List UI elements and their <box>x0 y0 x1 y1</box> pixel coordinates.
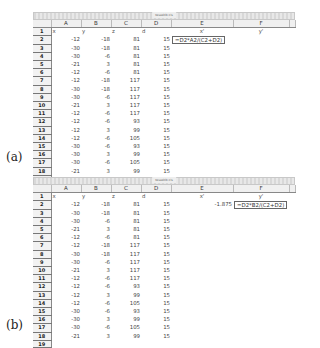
cell-c[interactable]: 81 <box>111 226 141 234</box>
cell-b[interactable]: -6 <box>81 93 111 101</box>
cell-c[interactable]: 93 <box>111 118 141 126</box>
cell-d[interactable]: 15 <box>141 308 171 316</box>
cell-d[interactable]: 15 <box>141 332 171 340</box>
cell-d1[interactable]: d <box>141 193 171 201</box>
cell-d[interactable]: 15 <box>141 118 171 126</box>
cell-a[interactable]: -21 <box>51 102 81 110</box>
cell-e[interactable] <box>171 316 233 324</box>
row-header[interactable]: 1 <box>33 193 51 201</box>
cell-a[interactable]: -30 <box>51 159 81 167</box>
cell[interactable] <box>111 340 141 347</box>
cell-e[interactable] <box>171 242 233 250</box>
cell-a[interactable]: -21 <box>51 167 81 175</box>
cell-f[interactable] <box>233 151 289 159</box>
row-header[interactable]: 17 <box>33 159 51 167</box>
cell-g[interactable] <box>289 93 295 101</box>
cell-f[interactable] <box>233 275 289 283</box>
cell-d[interactable]: 15 <box>141 217 171 225</box>
cell-c[interactable]: 81 <box>111 217 141 225</box>
cell-e[interactable] <box>171 291 233 299</box>
cell-g1[interactable] <box>289 28 295 36</box>
row-header[interactable]: 16 <box>33 316 51 324</box>
cell-e[interactable] <box>171 209 233 217</box>
cell-e1[interactable]: x' <box>171 193 233 201</box>
cell-g[interactable] <box>289 308 295 316</box>
cell-f[interactable] <box>233 291 289 299</box>
cell-b[interactable]: 3 <box>81 102 111 110</box>
cell-b[interactable]: 3 <box>81 291 111 299</box>
cell-e[interactable]: -1.875 <box>171 201 233 209</box>
cell-a[interactable]: -12 <box>51 77 81 85</box>
cell-b[interactable]: -18 <box>81 36 111 44</box>
cell-f[interactable] <box>233 308 289 316</box>
cell-e[interactable] <box>171 299 233 307</box>
cell-c[interactable]: 117 <box>111 77 141 85</box>
cell-c[interactable]: 99 <box>111 291 141 299</box>
cell-f[interactable] <box>233 61 289 69</box>
cell-b[interactable]: -6 <box>81 134 111 142</box>
cell-d[interactable]: 15 <box>141 52 171 60</box>
cell-b[interactable]: -6 <box>81 234 111 242</box>
cell-e[interactable] <box>171 134 233 142</box>
cell-a[interactable]: -30 <box>51 316 81 324</box>
cell-d[interactable]: 15 <box>141 134 171 142</box>
cell-e[interactable] <box>171 52 233 60</box>
cell-f[interactable] <box>233 118 289 126</box>
row-header[interactable]: 4 <box>33 52 51 60</box>
cell-d[interactable]: 15 <box>141 283 171 291</box>
cell-e[interactable] <box>171 275 233 283</box>
cell-d[interactable]: 15 <box>141 159 171 167</box>
formula-input-f2[interactable]: =D2*B2/(C2+D2) <box>234 201 287 209</box>
cell-b[interactable]: -18 <box>81 209 111 217</box>
cell-c[interactable]: 105 <box>111 299 141 307</box>
cell-c[interactable]: 93 <box>111 308 141 316</box>
cell-d1[interactable]: d <box>141 28 171 36</box>
cell-d[interactable]: 15 <box>141 126 171 134</box>
cell-e[interactable] <box>171 226 233 234</box>
cell-f[interactable] <box>233 242 289 250</box>
cell-a[interactable]: -30 <box>51 217 81 225</box>
cell[interactable] <box>289 340 295 347</box>
row-header[interactable]: 5 <box>33 226 51 234</box>
cell-f[interactable] <box>233 134 289 142</box>
cell-e[interactable] <box>171 143 233 151</box>
row-header[interactable]: 3 <box>33 44 51 52</box>
cell-f[interactable] <box>233 93 289 101</box>
cell-c[interactable]: 117 <box>111 242 141 250</box>
cell-b[interactable]: -6 <box>81 52 111 60</box>
cell-g[interactable] <box>289 102 295 110</box>
cell-a[interactable]: -12 <box>51 283 81 291</box>
cell-g[interactable] <box>289 332 295 340</box>
cell-b[interactable]: -6 <box>81 69 111 77</box>
cell-c[interactable]: 99 <box>111 151 141 159</box>
cell-g[interactable] <box>289 283 295 291</box>
cell-f[interactable] <box>233 85 289 93</box>
cell-a[interactable]: -30 <box>51 308 81 316</box>
cell-d[interactable]: 15 <box>141 209 171 217</box>
row-header[interactable]: 7 <box>33 77 51 85</box>
cell-b1[interactable]: y <box>81 193 111 201</box>
cell-d[interactable]: 15 <box>141 110 171 118</box>
cell-c[interactable]: 93 <box>111 283 141 291</box>
column-header-g[interactable] <box>289 185 295 193</box>
cell-c[interactable]: 105 <box>111 324 141 332</box>
cell-c[interactable]: 105 <box>111 159 141 167</box>
column-header-a[interactable]: A <box>51 20 81 28</box>
cell-g[interactable] <box>289 52 295 60</box>
cell-d[interactable]: 15 <box>141 69 171 77</box>
cell-f[interactable] <box>233 167 289 175</box>
cell-d[interactable]: 15 <box>141 267 171 275</box>
cell-g[interactable] <box>289 143 295 151</box>
cell-g[interactable] <box>289 167 295 175</box>
cell-a[interactable]: -12 <box>51 134 81 142</box>
cell-f[interactable] <box>233 44 289 52</box>
cell-e[interactable] <box>171 126 233 134</box>
cell-d[interactable]: 15 <box>141 258 171 266</box>
cell-b[interactable]: 3 <box>81 151 111 159</box>
cell-c1[interactable]: z <box>111 28 141 36</box>
cell-f[interactable] <box>233 299 289 307</box>
cell-e[interactable] <box>171 118 233 126</box>
cell-a[interactable]: -12 <box>51 275 81 283</box>
cell-g[interactable] <box>289 250 295 258</box>
cell-f[interactable] <box>233 36 289 44</box>
